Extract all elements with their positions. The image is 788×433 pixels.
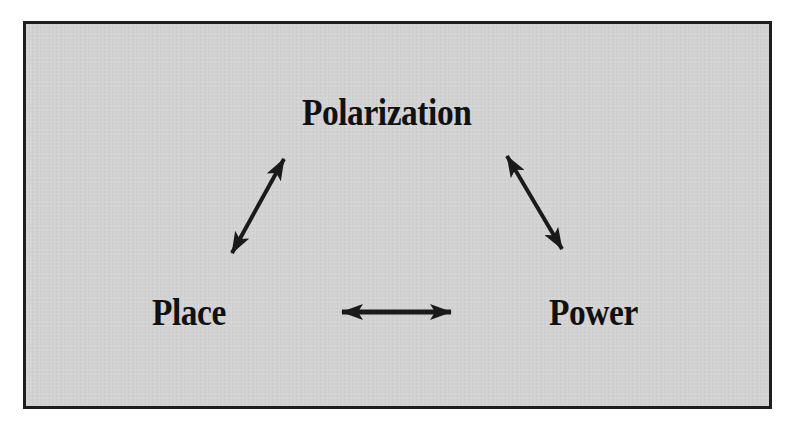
node-power: Power xyxy=(549,293,638,331)
node-place: Place xyxy=(152,293,226,331)
node-polarization: Polarization xyxy=(302,93,471,131)
diagram-frame xyxy=(23,21,772,409)
